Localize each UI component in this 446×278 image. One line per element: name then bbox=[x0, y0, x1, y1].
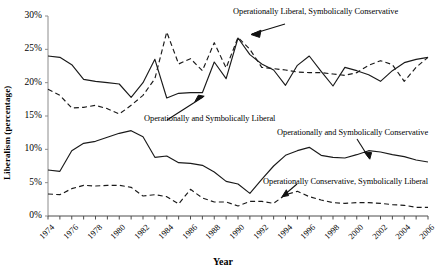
arrow-head-op-lib-sym-con bbox=[251, 30, 261, 37]
arrow-head-op-sym-con bbox=[364, 152, 371, 159]
series-line-1 bbox=[48, 38, 428, 98]
x-tick-marks bbox=[48, 216, 428, 220]
arrow-head-op-con-sym-lib bbox=[282, 190, 289, 197]
annot-op-sym-lib: Operationally and Symbolically Liberal bbox=[144, 114, 275, 123]
annot-op-lib-sym-con: Operationally Liberal, Symbolically Cons… bbox=[233, 7, 398, 16]
arrow-head-op-sym-lib bbox=[195, 95, 204, 102]
annot-op-con-sym-lib: Operationally Conservative, Symbolically… bbox=[263, 177, 428, 186]
series-line-0 bbox=[48, 32, 428, 114]
x-axis-title: Year bbox=[0, 256, 446, 267]
annot-op-sym-con: Operationally and Symbolically Conservat… bbox=[277, 128, 428, 137]
series-line-3 bbox=[48, 185, 428, 207]
plot-area bbox=[0, 0, 446, 278]
liberalism-trend-chart: Liberalism (percentage) 0%5%10%15%20%25%… bbox=[0, 0, 446, 278]
